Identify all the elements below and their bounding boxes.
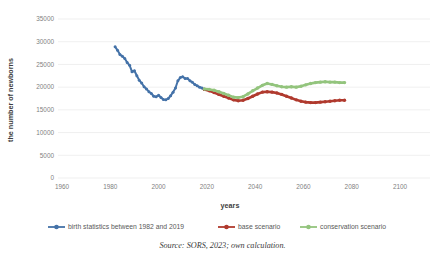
y-axis-title: the number of newborns bbox=[6, 58, 15, 142]
data-point bbox=[290, 85, 293, 88]
legend-item-0[interactable]: birth statistics between 1982 and 2019 bbox=[48, 223, 184, 230]
legend-swatch-marker bbox=[224, 225, 229, 230]
data-point bbox=[116, 49, 119, 52]
data-point bbox=[186, 77, 189, 80]
y-tick-label: 0 bbox=[50, 174, 54, 181]
x-tick-label: 2080 bbox=[345, 183, 360, 190]
newborns-line-chart: 05000100001500020000250003000035000 1960… bbox=[0, 0, 445, 254]
data-point bbox=[304, 100, 307, 103]
x-tick-label: 1980 bbox=[103, 183, 118, 190]
data-point bbox=[338, 81, 341, 84]
data-point bbox=[232, 95, 235, 98]
data-point bbox=[270, 83, 273, 86]
data-point bbox=[147, 90, 150, 93]
data-point bbox=[266, 82, 269, 85]
data-point bbox=[275, 84, 278, 87]
legend-swatch-marker bbox=[306, 225, 311, 230]
data-point bbox=[114, 45, 117, 48]
data-point bbox=[172, 91, 175, 94]
data-point bbox=[338, 99, 341, 102]
data-point bbox=[256, 92, 259, 95]
data-point bbox=[128, 64, 131, 67]
data-point bbox=[143, 85, 146, 88]
data-point bbox=[237, 96, 240, 99]
data-point bbox=[319, 100, 322, 103]
data-point bbox=[328, 100, 331, 103]
data-point bbox=[299, 100, 302, 103]
data-point bbox=[275, 91, 278, 94]
data-point bbox=[217, 90, 220, 93]
data-point bbox=[159, 96, 162, 99]
data-point bbox=[333, 80, 336, 83]
y-tick-label: 15000 bbox=[36, 106, 54, 113]
data-point bbox=[251, 95, 254, 98]
data-point bbox=[256, 86, 259, 89]
x-tick-label: 2060 bbox=[296, 183, 311, 190]
data-point bbox=[314, 81, 317, 84]
data-point bbox=[328, 80, 331, 83]
data-point bbox=[280, 85, 283, 88]
data-point bbox=[309, 82, 312, 85]
data-point bbox=[133, 69, 136, 72]
data-point bbox=[203, 87, 206, 90]
data-point bbox=[343, 99, 346, 102]
data-point bbox=[280, 93, 283, 96]
y-tick-label: 10000 bbox=[36, 129, 54, 136]
data-point bbox=[123, 57, 126, 60]
data-point bbox=[246, 92, 249, 95]
y-tick-label: 5000 bbox=[40, 152, 55, 159]
data-point bbox=[121, 55, 124, 58]
data-point bbox=[299, 85, 302, 88]
x-tick-label: 2000 bbox=[151, 183, 166, 190]
data-point bbox=[309, 101, 312, 104]
data-point bbox=[176, 79, 179, 82]
data-point bbox=[237, 99, 240, 102]
data-point bbox=[140, 82, 143, 85]
data-point bbox=[261, 90, 264, 93]
x-tick-label: 2100 bbox=[393, 183, 408, 190]
data-point bbox=[241, 95, 244, 98]
data-point bbox=[174, 87, 177, 90]
plot-background bbox=[0, 0, 445, 254]
x-tick-label: 2020 bbox=[200, 183, 215, 190]
data-point bbox=[323, 100, 326, 103]
legend-label: conservation scenario bbox=[320, 223, 386, 230]
data-point bbox=[290, 96, 293, 99]
source-caption: Source: SORS, 2023; own calculation. bbox=[0, 241, 445, 250]
y-tick-label: 20000 bbox=[36, 83, 54, 90]
data-point bbox=[208, 88, 211, 91]
data-point bbox=[227, 94, 230, 97]
data-point bbox=[118, 53, 121, 56]
data-point bbox=[314, 101, 317, 104]
x-tick-label: 2040 bbox=[248, 183, 263, 190]
data-point bbox=[294, 98, 297, 101]
data-point bbox=[319, 80, 322, 83]
data-point bbox=[246, 97, 249, 100]
legend-swatch-marker bbox=[54, 225, 59, 230]
data-point bbox=[241, 99, 244, 102]
data-point bbox=[251, 89, 254, 92]
legend-label: birth statistics between 1982 and 2019 bbox=[68, 223, 184, 230]
data-point bbox=[261, 84, 264, 87]
data-point bbox=[294, 85, 297, 88]
chart-figure: 05000100001500020000250003000035000 1960… bbox=[0, 0, 445, 254]
data-point bbox=[270, 90, 273, 93]
data-point bbox=[222, 92, 225, 95]
data-point bbox=[145, 87, 148, 90]
data-point bbox=[138, 79, 141, 82]
y-tick-label: 30000 bbox=[36, 38, 54, 45]
x-axis-title: years bbox=[221, 201, 240, 210]
data-point bbox=[304, 83, 307, 86]
y-tick-label: 25000 bbox=[36, 61, 54, 68]
legend-label: base scenario bbox=[238, 223, 281, 230]
data-point bbox=[135, 74, 138, 77]
data-point bbox=[285, 85, 288, 88]
data-point bbox=[333, 99, 336, 102]
data-point bbox=[212, 89, 215, 92]
data-point bbox=[150, 92, 153, 95]
data-point bbox=[191, 81, 194, 84]
data-point bbox=[126, 61, 129, 64]
data-point bbox=[167, 97, 170, 100]
data-point bbox=[157, 94, 160, 97]
y-tick-label: 35000 bbox=[36, 15, 54, 22]
